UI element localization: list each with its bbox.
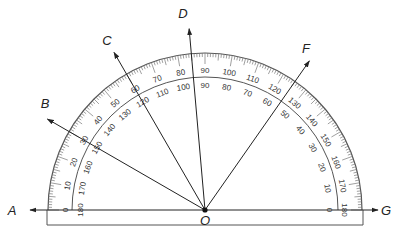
scale-tick [353, 172, 357, 173]
scale-tick [347, 151, 351, 152]
scale-tick [324, 111, 327, 114]
scale-tick [331, 132, 341, 138]
scale-tick [87, 107, 90, 110]
scale-tick [80, 116, 83, 118]
scale-tick [122, 77, 124, 80]
scale-tick [141, 67, 143, 71]
scale-tick [144, 65, 146, 69]
outer-scale-number: 140 [304, 112, 320, 128]
scale-tick [175, 56, 176, 60]
scale-tick [52, 175, 56, 176]
scale-tick [73, 124, 76, 126]
scale-tick [56, 161, 60, 162]
point-label-O: O [200, 213, 210, 228]
scale-tick [311, 97, 314, 100]
inner-scale-number: 40 [294, 124, 307, 137]
scale-tick [348, 154, 352, 155]
scale-tick [265, 65, 267, 69]
inner-scale-number: 140 [102, 122, 118, 138]
scale-tick [229, 55, 230, 59]
inner-scale-number: 130 [117, 107, 133, 123]
scale-tick [85, 109, 93, 116]
scale-tick [341, 139, 345, 141]
scale-tick [170, 57, 171, 61]
inner-scale-number: 20 [316, 162, 328, 174]
scale-tick [351, 161, 355, 162]
scale-tick [57, 159, 61, 160]
scale-tick [305, 92, 308, 95]
scale-tick [183, 55, 184, 59]
outer-scale-number: 100 [222, 67, 237, 78]
scale-tick [129, 73, 131, 76]
scale-tick [355, 177, 359, 178]
inner-scale-number: 100 [176, 82, 191, 93]
outer-scale-number: 130 [287, 95, 303, 111]
inner-scale-number: 80 [221, 82, 232, 93]
scale-tick [319, 105, 322, 108]
scale-tick [244, 58, 246, 65]
scale-tick [53, 172, 57, 173]
scale-tick [146, 64, 147, 68]
scale-tick [218, 54, 219, 61]
inner-scale-number: 10 [322, 183, 333, 194]
point-label-B: B [41, 96, 50, 111]
scale-tick [295, 83, 297, 86]
inner-scale-number: 50 [279, 108, 292, 121]
scale-tick [339, 134, 342, 136]
scale-tick [326, 113, 329, 115]
inner-scale-number: 160 [82, 159, 95, 175]
scale-tick [250, 60, 251, 64]
scale-tick [291, 80, 293, 83]
scale-tick [354, 175, 358, 176]
scale-tick [88, 105, 91, 108]
scale-tick [81, 113, 84, 115]
scale-tick [317, 109, 325, 116]
scale-tick [50, 183, 61, 185]
scale-tick [62, 146, 66, 148]
scale-tick [59, 151, 63, 152]
scale-tick [350, 159, 354, 160]
scale-tick [234, 56, 235, 60]
center-point [202, 207, 207, 212]
scale-tick [341, 144, 347, 147]
outer-scale-number: 70 [152, 73, 164, 85]
scale-tick [164, 58, 166, 65]
scale-tick [72, 127, 75, 129]
scale-tick [50, 185, 54, 186]
scale-tick [64, 141, 68, 143]
scale-tick [286, 77, 288, 80]
scale-tick [299, 86, 301, 89]
scale-tick [267, 67, 269, 71]
scale-tick [332, 122, 335, 124]
scale-tick [167, 58, 168, 62]
scale-tick [83, 111, 86, 114]
scale-tick [333, 124, 336, 126]
scale-tick [124, 75, 126, 78]
scale-tick [284, 75, 286, 78]
scale-tick [255, 62, 256, 66]
scale-tick [272, 69, 274, 73]
scale-tick [351, 164, 355, 165]
scale-tick [349, 183, 360, 185]
scale-tick [354, 196, 361, 197]
scale-tick [90, 103, 93, 106]
scale-tick [309, 95, 312, 98]
scale-tick [115, 81, 119, 87]
scale-tick [343, 141, 347, 143]
inner-scale-number: 30 [307, 142, 320, 155]
scale-tick [108, 86, 110, 89]
outer-scale-number: 120 [267, 82, 284, 97]
outer-scale-number: 150 [318, 132, 333, 149]
scale-tick [357, 188, 361, 189]
scale-tick [98, 95, 101, 98]
outer-scale-number: 10 [63, 180, 74, 191]
scale-tick [65, 139, 69, 141]
scale-tick [58, 154, 62, 155]
scale-tick [327, 116, 330, 118]
scale-tick [180, 55, 181, 59]
scale-tick [277, 71, 279, 75]
scale-tick [346, 149, 350, 151]
scale-tick [92, 101, 95, 104]
scale-tick [117, 80, 119, 83]
scale-tick [154, 62, 155, 66]
